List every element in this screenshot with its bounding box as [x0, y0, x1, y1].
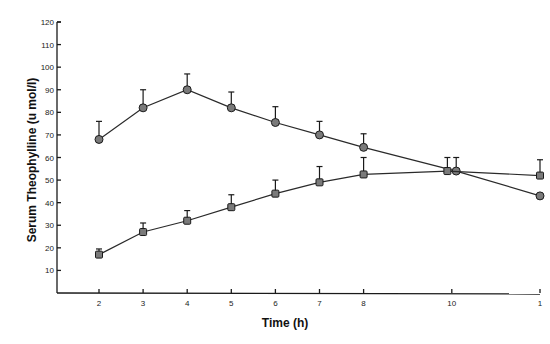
- square-marker: [184, 217, 191, 224]
- circle-marker: [271, 118, 279, 126]
- square-marker: [96, 251, 103, 258]
- x-tick-label: 7: [317, 299, 322, 308]
- y-tick-label: 50: [45, 176, 54, 185]
- square-marker: [537, 172, 544, 179]
- square-marker: [272, 190, 279, 197]
- x-tick-label: 1: [538, 299, 543, 308]
- y-axis-title: Serum Theophylline (u mol/l): [25, 78, 39, 243]
- x-axis-title: Time (h): [262, 316, 308, 330]
- axes: [57, 22, 540, 294]
- y-tick-label: 20: [45, 244, 54, 253]
- square-marker: [360, 171, 367, 178]
- circle-marker: [183, 86, 191, 94]
- x-tick-label: 4: [185, 299, 190, 308]
- x-tick-label: 5: [229, 299, 234, 308]
- y-tick-label: 60: [45, 154, 54, 163]
- circle-marker: [360, 143, 368, 151]
- y-tick-label: 40: [45, 199, 54, 208]
- y-tick-label: 100: [41, 63, 55, 72]
- x-tick-label: 3: [141, 299, 146, 308]
- y-tick-label: 70: [45, 131, 54, 140]
- y-axis-ticks: 102030405060708090100110120: [41, 18, 61, 275]
- x-axis-ticks: 2345678101: [97, 289, 543, 308]
- square-marker: [316, 179, 323, 186]
- y-tick-label: 120: [41, 18, 55, 27]
- y-axis-title-group: Serum Theophylline (u mol/l): [25, 78, 39, 243]
- x-tick-label: 6: [273, 299, 278, 308]
- circle-marker: [227, 104, 235, 112]
- x-axis-line: [57, 293, 540, 294]
- circle-marker: [95, 135, 103, 143]
- circle-marker: [536, 192, 544, 200]
- square-marker: [140, 229, 147, 236]
- y-tick-label: 90: [45, 86, 54, 95]
- x-tick-label: 10: [447, 299, 456, 308]
- square-marker: [228, 204, 235, 211]
- y-tick-label: 80: [45, 108, 54, 117]
- theophylline-chart: Serum Theophylline (u mol/l) Time (h) 10…: [0, 0, 550, 344]
- y-tick-label: 30: [45, 221, 54, 230]
- x-tick-label: 2: [97, 299, 102, 308]
- x-tick-label: 8: [361, 299, 366, 308]
- circle-marker: [139, 104, 147, 112]
- series-squares: [96, 158, 544, 259]
- y-tick-label: 10: [45, 266, 54, 275]
- square-marker: [444, 168, 451, 175]
- y-tick-label: 110: [41, 41, 54, 50]
- circle-marker: [316, 131, 324, 139]
- plot-area: [95, 74, 544, 258]
